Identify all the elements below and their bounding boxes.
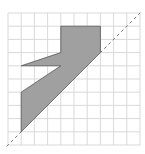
- diagram-canvas: [0, 0, 145, 154]
- grid-diagram: [0, 0, 145, 154]
